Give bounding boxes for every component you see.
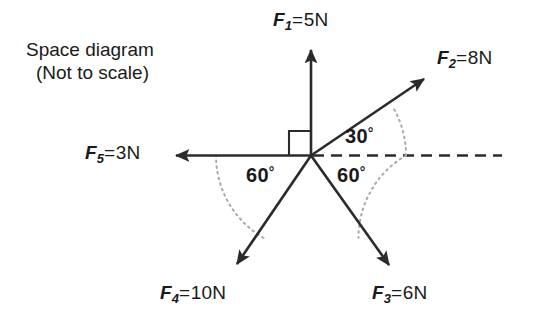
force-unit-F3: N	[413, 282, 427, 303]
force-label-F3: F3=6N	[372, 281, 427, 307]
force-equals-F4: =	[179, 282, 191, 303]
force-symbol-F4: F	[160, 282, 172, 303]
degree-symbol-60-left: °	[269, 164, 275, 180]
force-label-F5: F5=3N	[85, 141, 140, 167]
caption-line-1: Space diagram	[26, 39, 154, 60]
caption-line-2: (Not to scale)	[26, 61, 154, 84]
angle-label-60-right: 60°	[337, 163, 366, 187]
angle-value-60-left: 60	[246, 164, 269, 186]
force-magnitude-F3: 6	[403, 282, 414, 303]
force-equals-F2: =	[456, 47, 468, 68]
force-unit-F4: N	[212, 282, 226, 303]
force-unit-F2: N	[478, 47, 492, 68]
force-magnitude-F2: 8	[468, 47, 479, 68]
space-diagram-figure: Space diagram (Not to scale) F1=5N F2=8N…	[0, 0, 534, 326]
force-symbol-F2: F	[437, 47, 449, 68]
angle-label-60-left: 60°	[246, 163, 275, 187]
force-label-F1: F1=5N	[273, 8, 328, 34]
force-magnitude-F1: 5	[304, 9, 315, 30]
force-symbol-F1: F	[273, 9, 285, 30]
force-subscript-F2: 2	[449, 56, 456, 71]
angle-value-60-right: 60	[337, 164, 360, 186]
degree-symbol-30: °	[368, 125, 374, 141]
force-symbol-F3: F	[372, 282, 384, 303]
force-magnitude-F5: 3	[116, 142, 127, 163]
force-label-F4: F4=10N	[160, 281, 226, 307]
diagram-caption: Space diagram (Not to scale)	[26, 38, 154, 84]
force-subscript-F3: 3	[384, 291, 391, 306]
force-equals-F3: =	[391, 282, 403, 303]
force-subscript-F5: 5	[97, 151, 104, 166]
force-subscript-F1: 1	[285, 18, 292, 33]
degree-symbol-60-right: °	[360, 164, 366, 180]
force-subscript-F4: 4	[172, 291, 179, 306]
force-unit-F1: N	[314, 9, 328, 30]
angle-arc-30	[393, 108, 406, 156]
right-angle-marker	[289, 131, 311, 156]
angle-value-30: 30	[345, 125, 368, 147]
force-label-F2: F2=8N	[437, 46, 492, 72]
force-magnitude-F4: 10	[191, 282, 213, 303]
force-equals-F1: =	[292, 9, 304, 30]
force-unit-F5: N	[126, 142, 140, 163]
angle-label-30: 30°	[345, 124, 374, 148]
force-symbol-F5: F	[85, 142, 97, 163]
force-equals-F5: =	[104, 142, 116, 163]
